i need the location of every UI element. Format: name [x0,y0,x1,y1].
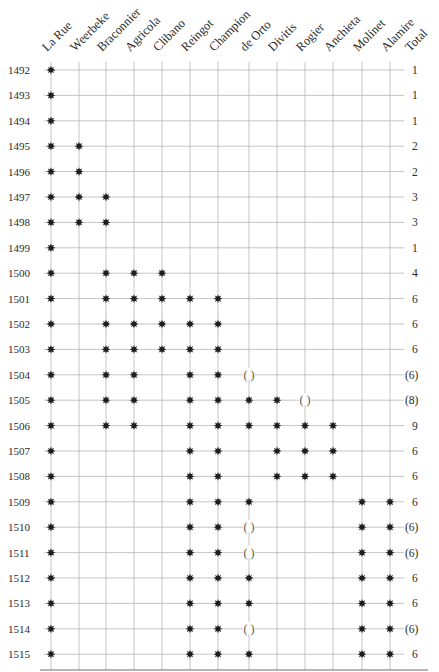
year-label: 1499 [8,242,31,254]
row-total: 3 [412,216,418,228]
star-marker-icon [245,396,254,405]
year-label: 1509 [8,496,31,508]
star-marker-icon [245,574,254,583]
star-marker-icon [214,574,223,583]
star-marker-icon [158,345,167,354]
table-row: 15126 [8,572,418,584]
row-total: 3 [412,191,418,203]
star-marker-icon [214,320,223,329]
year-label: 1512 [8,572,30,584]
star-marker-icon [158,294,167,303]
star-marker-icon [358,523,367,532]
star-marker-icon [186,345,195,354]
star-marker-icon [186,370,195,379]
year-label: 1493 [8,89,31,101]
star-marker-icon [102,320,111,329]
star-marker-icon [358,650,367,659]
year-label: 1515 [8,648,31,660]
star-marker-icon [186,294,195,303]
row-total: (6) [405,521,419,534]
table-row: 1514( )(6) [8,622,419,636]
table-row: 14952 [8,140,418,152]
star-marker-icon [47,218,56,227]
column-header: La Rue [39,18,75,54]
star-marker-icon [130,294,139,303]
star-marker-icon [214,548,223,557]
star-marker-icon [102,421,111,430]
star-marker-icon [47,624,56,633]
star-marker-icon [47,548,56,557]
table-row: 15096 [8,496,418,508]
star-marker-icon [273,447,282,456]
star-marker-icon [47,320,56,329]
year-label: 1503 [8,343,31,355]
star-marker-icon [214,370,223,379]
star-marker-icon [158,269,167,278]
star-marker-icon [186,472,195,481]
star-marker-icon [102,345,111,354]
star-marker-icon [186,624,195,633]
star-marker-icon [47,497,56,506]
row-total: (6) [405,547,419,560]
star-marker-icon [75,142,84,151]
star-marker-icon [130,269,139,278]
star-marker-icon [102,294,111,303]
year-label: 1498 [8,216,31,228]
star-marker-icon [301,447,310,456]
star-marker-icon [47,193,56,202]
star-marker-icon [47,396,56,405]
star-marker-icon [158,320,167,329]
table-row: 1510( )(6) [8,520,419,534]
row-total: 1 [412,242,418,254]
table-row: 15069 [8,420,418,432]
star-marker-icon [358,497,367,506]
row-total: 1 [412,115,418,127]
table-row: 14941 [8,115,418,127]
row-total: 9 [412,420,418,432]
star-marker-icon [214,472,223,481]
table-row: 1504( )(6) [8,368,419,382]
star-marker-icon [47,599,56,608]
star-marker-icon [102,269,111,278]
star-marker-icon [186,650,195,659]
row-total: 2 [412,140,418,152]
star-marker-icon [130,370,139,379]
rows: 1492114931149411495214962149731498314991… [8,64,419,660]
table-row: 15156 [8,648,418,660]
year-label: 1507 [8,445,31,457]
star-marker-icon [358,624,367,633]
uncertain-marker: ( ) [244,546,255,560]
star-marker-icon [130,421,139,430]
star-marker-icon [214,447,223,456]
star-marker-icon [47,574,56,583]
star-marker-icon [214,650,223,659]
star-marker-icon [47,472,56,481]
star-marker-icon [47,142,56,151]
row-total: 1 [412,64,418,76]
star-marker-icon [386,650,395,659]
star-marker-icon [186,396,195,405]
year-label: 1496 [8,166,31,178]
year-label: 1513 [8,597,31,609]
table-row: 15016 [8,293,418,305]
star-marker-icon [130,396,139,405]
uncertain-marker: ( ) [244,622,255,636]
star-marker-icon [186,574,195,583]
star-marker-icon [186,599,195,608]
column-headers: La RueWeerbekeBraconnierAgricolaClibanoR… [39,4,430,54]
year-label: 1494 [8,115,31,127]
star-marker-icon [186,447,195,456]
star-marker-icon [47,269,56,278]
star-marker-icon [386,497,395,506]
star-marker-icon [329,421,338,430]
star-marker-icon [301,472,310,481]
row-total: 6 [412,597,418,609]
star-marker-icon [273,396,282,405]
star-marker-icon [301,421,310,430]
star-marker-icon [47,116,56,125]
row-total: 6 [412,318,418,330]
table-row: 1505( )(8) [8,393,419,407]
star-marker-icon [102,218,111,227]
star-marker-icon [47,421,56,430]
star-marker-icon [130,320,139,329]
